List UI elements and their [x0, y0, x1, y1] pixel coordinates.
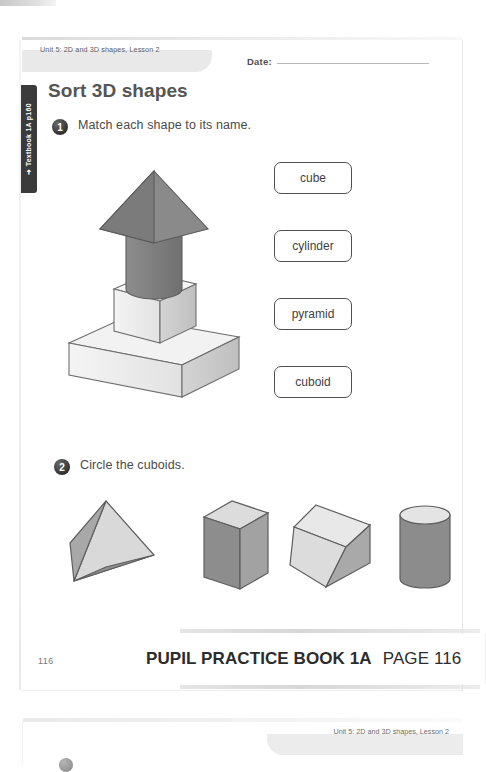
unit-label: Unit 5: 2D and 3D shapes, Lesson 2	[40, 45, 160, 54]
next-unit-label: Unit 5: 2D and 3D shapes, Lesson 2	[334, 727, 449, 736]
worksheet-page: Unit 5: 2D and 3D shapes, Lesson 2 Date:…	[22, 40, 463, 691]
next-unit-tab	[267, 734, 463, 755]
name-box-cube[interactable]: cube	[274, 162, 352, 194]
question-1-badge: 1	[52, 119, 68, 135]
date-write-line[interactable]	[277, 62, 429, 64]
footer-book-title: PUPIL PRACTICE BOOK 1A	[146, 649, 372, 669]
q2-shape-cylinder[interactable]	[390, 495, 460, 599]
name-box-cuboid[interactable]: cuboid	[274, 366, 352, 398]
cuboid-tilted-svg	[286, 495, 386, 595]
date-field[interactable]: Date:	[247, 56, 429, 67]
footer-page-number: PAGE 116	[383, 649, 462, 669]
composite-tower-figure	[64, 165, 244, 414]
question-2-badge: 2	[54, 459, 70, 475]
date-label: Date:	[247, 56, 272, 67]
q2-shape-cuboid-tilted[interactable]	[286, 495, 386, 599]
tower-pyramid	[100, 171, 208, 243]
cuboid-upright-svg	[198, 495, 278, 595]
page-number: 116	[38, 656, 54, 666]
name-box-pyramid[interactable]: pyramid	[274, 298, 352, 330]
textbook-reference-label: ➜ Textbook 1A p160	[25, 103, 33, 175]
footer-banner: PUPIL PRACTICE BOOK 1A PAGE 116	[120, 634, 486, 684]
name-box-cylinder[interactable]: cylinder	[274, 230, 352, 262]
textbook-reference-tab[interactable]: ➜ Textbook 1A p160	[20, 85, 37, 193]
next-question-badge	[59, 758, 73, 772]
q2-shape-cuboid-upright[interactable]	[198, 495, 278, 599]
cylinder-svg	[390, 495, 460, 595]
question-1-text: Match each shape to its name.	[78, 118, 251, 132]
question-1: 1 Match each shape to its name.	[52, 118, 251, 135]
q2-shape-triangular-pyramid[interactable]	[66, 495, 162, 599]
question-2: 2 Circle the cuboids.	[54, 458, 185, 475]
tower-svg	[64, 165, 244, 410]
next-worksheet-page: Unit 5: 2D and 3D shapes, Lesson 2	[22, 722, 463, 764]
page-title: Sort 3D shapes	[48, 80, 188, 102]
shape-name-boxes: cube cylinder pyramid cuboid	[274, 162, 352, 434]
scan-artifact-strip	[0, 0, 56, 6]
triangular-pyramid-svg	[66, 495, 162, 595]
question-2-text: Circle the cuboids.	[80, 458, 185, 472]
